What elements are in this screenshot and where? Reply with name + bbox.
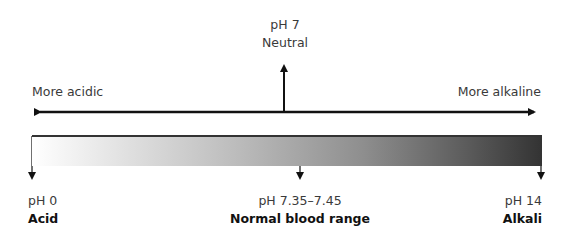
blood-range-ph-value: pH 7.35–7.45 bbox=[258, 193, 341, 208]
blood-range-label: Normal blood range bbox=[230, 211, 370, 226]
acid-label: Acid bbox=[28, 211, 58, 226]
more-acidic-label: More acidic bbox=[32, 84, 103, 99]
more-alkaline-label: More alkaline bbox=[458, 84, 541, 99]
alkali-label: Alkali bbox=[503, 211, 542, 226]
ph-scale-diagram: pH 7 Neutral More acidic More alkaline p… bbox=[0, 0, 572, 247]
neutral-ph-label: pH 7 bbox=[270, 17, 299, 32]
neutral-label: Neutral bbox=[262, 35, 308, 50]
acid-ph-value: pH 0 bbox=[28, 193, 57, 208]
ph-gradient-bar bbox=[32, 135, 542, 166]
alkali-ph-value: pH 14 bbox=[505, 193, 542, 208]
